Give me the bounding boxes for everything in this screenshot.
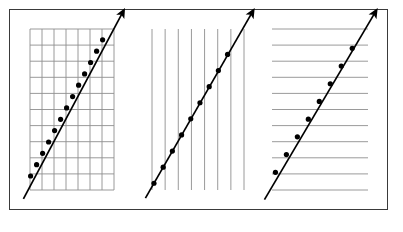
data-point xyxy=(328,81,333,86)
data-point xyxy=(188,116,193,121)
data-point xyxy=(197,100,202,105)
data-points-vertical xyxy=(151,52,230,186)
data-point xyxy=(70,94,75,99)
data-point xyxy=(350,46,355,51)
data-point xyxy=(216,68,221,73)
data-point xyxy=(317,99,322,104)
data-point xyxy=(76,83,81,88)
figure-root xyxy=(0,0,403,232)
panel-full-grid xyxy=(23,13,122,199)
data-point xyxy=(151,181,156,186)
trend-arrow xyxy=(264,13,374,200)
panel-vertical-grid xyxy=(145,13,251,198)
data-point xyxy=(28,173,33,178)
plots-canvas xyxy=(0,0,403,232)
trend-arrow xyxy=(145,13,251,198)
trend-arrow xyxy=(23,13,122,199)
data-point xyxy=(225,52,230,57)
data-point xyxy=(64,105,69,110)
data-points-horizontal xyxy=(273,46,355,175)
data-point xyxy=(46,139,51,144)
panel-horizontal-grid xyxy=(264,13,374,200)
data-point xyxy=(273,170,278,175)
trend-line-full xyxy=(23,13,122,199)
data-point xyxy=(179,132,184,137)
data-point xyxy=(94,49,99,54)
grid-lines-horizontal xyxy=(272,29,368,190)
trend-line-vertical xyxy=(145,13,251,198)
data-point xyxy=(82,71,87,76)
grid-lines-vertical xyxy=(152,29,244,190)
data-point xyxy=(34,162,39,167)
data-point xyxy=(284,152,289,157)
data-point xyxy=(88,60,93,65)
data-point xyxy=(58,117,63,122)
data-point xyxy=(170,148,175,153)
data-point xyxy=(306,117,311,122)
data-point xyxy=(100,37,105,42)
data-point xyxy=(161,165,166,170)
data-point xyxy=(295,134,300,139)
trend-line-horizontal xyxy=(264,13,374,200)
data-point xyxy=(52,128,57,133)
data-point xyxy=(40,151,45,156)
data-point xyxy=(207,84,212,89)
data-point xyxy=(339,63,344,68)
